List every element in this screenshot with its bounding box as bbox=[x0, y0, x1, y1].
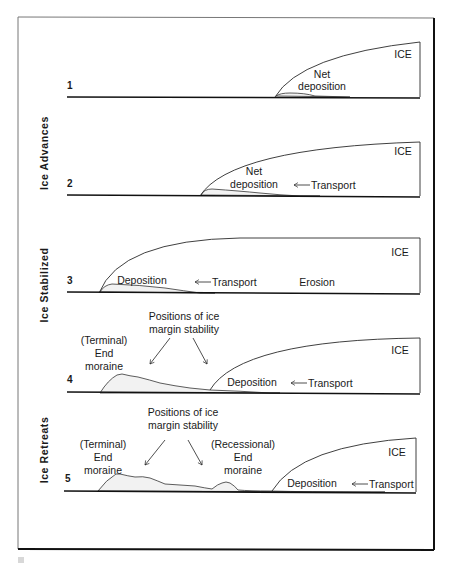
ice-margin-arrow-icon bbox=[188, 440, 202, 465]
terminal-label-line2: End bbox=[94, 451, 113, 463]
figure-caption-mark bbox=[18, 557, 24, 563]
positions-label-line2: margin stability bbox=[148, 419, 219, 431]
deposition-label: Deposition bbox=[287, 477, 337, 489]
panel-1: 1 ICE Net deposition bbox=[67, 42, 420, 98]
ice-margin-arrow-icon bbox=[145, 440, 165, 465]
ground-line bbox=[64, 491, 416, 493]
erosion-label: Erosion bbox=[299, 276, 335, 288]
deposition-label: Deposition bbox=[227, 376, 277, 388]
terminal-label-line2: End bbox=[95, 347, 114, 359]
sediment-deposit bbox=[201, 189, 320, 196]
side-label-ice-retreats: Ice Retreats bbox=[38, 417, 50, 484]
panel-5: 5 ICE Positions of ice margin stability … bbox=[64, 406, 416, 493]
transport-label: Transport bbox=[311, 179, 356, 191]
side-label-ice-advances: Ice Advances bbox=[38, 116, 50, 190]
ground-line bbox=[67, 392, 420, 394]
ground-line bbox=[67, 292, 420, 294]
panel-number: 2 bbox=[67, 178, 73, 189]
panel-number: 3 bbox=[67, 275, 73, 286]
side-label-ice-stabilized: Ice Stabilized bbox=[38, 248, 50, 323]
ice-label: ICE bbox=[394, 48, 412, 60]
net-label: Net bbox=[246, 165, 262, 177]
recessional-label-line1: (Recessional) bbox=[211, 438, 275, 450]
positions-label-line2: margin stability bbox=[149, 323, 220, 335]
net-label: Net bbox=[314, 68, 330, 80]
ice-label: ICE bbox=[394, 145, 412, 157]
positions-label-line1: Positions of ice bbox=[149, 310, 220, 322]
ice-margin-arrow-icon bbox=[150, 338, 170, 364]
transport-label: Transport bbox=[369, 478, 414, 490]
recessional-label-line2: End bbox=[234, 451, 253, 463]
panel-4: 4 ICE Positions of ice margin stability … bbox=[67, 310, 420, 394]
end-moraines bbox=[98, 474, 385, 492]
panel-number: 4 bbox=[67, 374, 73, 385]
ice-label: ICE bbox=[388, 446, 406, 458]
transport-label: Transport bbox=[308, 377, 353, 389]
panel-number: 5 bbox=[65, 473, 71, 484]
recessional-label-line3: moraine bbox=[224, 464, 262, 476]
deposition-label: deposition bbox=[298, 80, 346, 92]
ice-margin-arrow-icon bbox=[193, 338, 207, 364]
terminal-label-line1: (Terminal) bbox=[81, 334, 128, 346]
ground-line bbox=[67, 97, 420, 98]
glacier-deposition-diagram: Ice Advances Ice Stabilized Ice Retreats… bbox=[0, 0, 450, 565]
panel-number: 1 bbox=[67, 80, 73, 91]
deposition-label: deposition bbox=[230, 178, 278, 190]
deposition-label: Deposition bbox=[117, 274, 167, 286]
transport-label: Transport bbox=[212, 276, 257, 288]
panel-3: 3 ICE Deposition Transport Erosion bbox=[67, 238, 420, 294]
ice-label: ICE bbox=[391, 246, 409, 258]
panel-2: 2 ICE Net deposition Transport bbox=[67, 142, 420, 197]
ice-label: ICE bbox=[391, 344, 409, 356]
positions-label-line1: Positions of ice bbox=[148, 406, 219, 418]
ground-line bbox=[67, 195, 420, 197]
terminal-label-line3: moraine bbox=[84, 464, 122, 476]
terminal-label-line3: moraine bbox=[85, 360, 123, 372]
sediment-deposit bbox=[276, 93, 350, 97]
terminal-label-line1: (Terminal) bbox=[80, 438, 127, 450]
